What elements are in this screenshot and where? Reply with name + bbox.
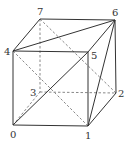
vertex-labels: 01234567 xyxy=(4,6,124,141)
vertex-label-6: 6 xyxy=(112,7,118,18)
vertex-label-5: 5 xyxy=(91,50,97,61)
solid-edge-4-7 xyxy=(13,19,40,51)
vertex-label-2: 2 xyxy=(118,88,124,99)
cube-diagram: 01234567 xyxy=(0,0,132,144)
visible-edges xyxy=(13,19,116,126)
vertex-label-7: 7 xyxy=(37,6,43,17)
solid-edge-6-2 xyxy=(115,20,116,93)
vertex-label-3: 3 xyxy=(30,87,36,98)
dashed-edge-3-2 xyxy=(40,92,116,93)
solid-edge-4-6 xyxy=(13,20,115,51)
dashed-edge-7-2 xyxy=(40,19,116,93)
vertex-label-1: 1 xyxy=(85,130,91,141)
solid-edge-7-6 xyxy=(40,19,115,20)
solid-edge-0-1 xyxy=(13,125,88,126)
vertex-label-0: 0 xyxy=(10,129,16,140)
vertex-label-4: 4 xyxy=(4,46,10,57)
solid-edge-4-5 xyxy=(13,51,88,52)
solid-edge-0-5 xyxy=(13,52,88,125)
